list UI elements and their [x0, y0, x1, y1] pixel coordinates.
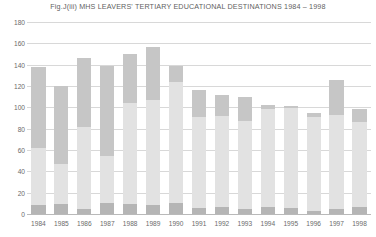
- y-axis-tick-label: 80: [1, 125, 25, 132]
- bar-stack: [77, 58, 91, 214]
- x-axis-tick-label: 1992: [215, 220, 230, 227]
- bar-segment: [215, 116, 229, 207]
- bar-segment: [123, 204, 137, 214]
- bar-segment: [261, 105, 275, 109]
- bar-segment: [307, 117, 321, 211]
- bar-stack: [307, 113, 321, 214]
- y-axis-tick-label: 180: [1, 19, 25, 26]
- bar-segment: [100, 156, 114, 203]
- bar-segment: [215, 207, 229, 214]
- bar-segment: [352, 109, 366, 122]
- bar-segment: [192, 117, 206, 208]
- bar-stack: [261, 105, 275, 214]
- bar-segment: [77, 58, 91, 126]
- x-axis-tick-label: 1987: [100, 220, 115, 227]
- bar-segment: [329, 209, 343, 214]
- bar-segment: [352, 207, 366, 214]
- y-axis-tick-label: 20: [1, 189, 25, 196]
- bar-segment: [146, 100, 160, 206]
- bar-stack: [169, 66, 183, 214]
- bar-stack: [146, 47, 160, 214]
- bar-stack: [238, 97, 252, 214]
- bar-stack: [329, 80, 343, 214]
- bar-segment: [192, 90, 206, 117]
- bar-stack: [54, 86, 68, 214]
- y-axis-tick-label: 140: [1, 61, 25, 68]
- bar-stack: [192, 90, 206, 214]
- bar-segment: [54, 204, 68, 214]
- x-axis-tick-label: 1993: [238, 220, 253, 227]
- chart-figure: Fig.J(iii) MHS LEAVERS' TERTIARY EDUCATI…: [0, 0, 376, 237]
- x-axis-tick-label: 1988: [123, 220, 138, 227]
- x-axis-line: [27, 214, 371, 215]
- bar-segment: [169, 66, 183, 82]
- bar-segment: [238, 97, 252, 122]
- bar-segment: [31, 205, 45, 214]
- bar-stack: [215, 95, 229, 214]
- bar-segment: [123, 103, 137, 204]
- bar-segment: [238, 209, 252, 214]
- bar-segment: [307, 113, 321, 117]
- bar-segment: [169, 82, 183, 204]
- x-axis-tick-label: 1986: [77, 220, 92, 227]
- bar-segment: [77, 209, 91, 214]
- bar-segment: [31, 148, 45, 206]
- bars-layer: [27, 22, 371, 214]
- x-axis-tick-label: 1995: [283, 220, 298, 227]
- bar-segment: [329, 115, 343, 209]
- bar-stack: [31, 67, 45, 214]
- bar-stack: [284, 106, 298, 214]
- bar-segment: [284, 108, 298, 207]
- bar-segment: [146, 205, 160, 214]
- bar-segment: [31, 67, 45, 148]
- y-axis-tick-label: 0: [1, 211, 25, 218]
- bar-segment: [146, 47, 160, 100]
- bar-segment: [329, 80, 343, 115]
- x-axis-tick-label: 1994: [260, 220, 275, 227]
- bar-segment: [54, 86, 68, 164]
- chart-title: Fig.J(iii) MHS LEAVERS' TERTIARY EDUCATI…: [0, 2, 376, 11]
- bar-segment: [100, 203, 114, 214]
- x-axis-tick-label: 1998: [352, 220, 367, 227]
- bar-segment: [123, 54, 137, 103]
- bar-segment: [215, 95, 229, 116]
- bar-segment: [77, 127, 91, 209]
- x-axis: 1984198519861987198819891990199119921993…: [27, 218, 371, 232]
- bar-segment: [352, 122, 366, 206]
- y-axis-tick-label: 120: [1, 83, 25, 90]
- bar-segment: [284, 106, 298, 108]
- y-axis-tick-label: 100: [1, 104, 25, 111]
- x-axis-tick-label: 1997: [329, 220, 344, 227]
- x-axis-tick-label: 1996: [306, 220, 321, 227]
- bar-segment: [261, 109, 275, 206]
- bar-segment: [192, 208, 206, 214]
- bar-segment: [307, 211, 321, 214]
- y-axis-tick-label: 40: [1, 168, 25, 175]
- y-axis-tick-label: 60: [1, 147, 25, 154]
- bar-segment: [238, 121, 252, 208]
- bar-segment: [284, 208, 298, 214]
- bar-stack: [352, 109, 366, 214]
- x-axis-tick-label: 1984: [31, 220, 46, 227]
- x-axis-tick-label: 1991: [192, 220, 207, 227]
- bar-stack: [123, 54, 137, 214]
- x-axis-tick-label: 1985: [54, 220, 69, 227]
- x-axis-tick-label: 1990: [169, 220, 184, 227]
- bar-segment: [100, 66, 114, 157]
- bar-segment: [169, 203, 183, 214]
- bar-stack: [100, 66, 114, 214]
- y-axis-tick-label: 160: [1, 40, 25, 47]
- bar-segment: [54, 164, 68, 205]
- x-axis-tick-label: 1989: [146, 220, 161, 227]
- plot-area: [27, 22, 371, 214]
- bar-segment: [261, 207, 275, 214]
